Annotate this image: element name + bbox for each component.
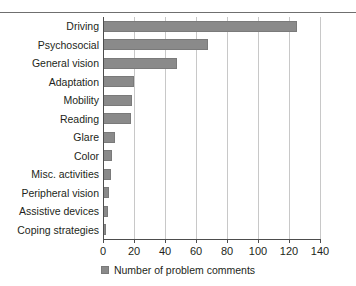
bar-color [103,150,112,161]
plot-area [103,17,320,239]
x-tick-label-140: 140 [300,244,340,258]
bar-general-vision [103,58,177,69]
tick-mark-140 [320,239,321,243]
legend-color-swatch [101,266,109,274]
category-label-reading: Reading [0,110,99,129]
category-label-assistive-devices: Assistive devices [0,202,99,221]
bar-reading [103,113,131,124]
tick-mark-20 [134,239,135,243]
bar-row [103,184,320,203]
tick-mark-80 [227,239,228,243]
bar-row [103,165,320,184]
category-label-general-vision: General vision [0,54,99,73]
bar-row [103,221,320,240]
bar-row [103,17,320,36]
bar-row [103,54,320,73]
category-label-adaptation: Adaptation [0,73,99,92]
bar-chart-figure: DrivingPsychosocialGeneral visionAdaptat… [0,0,356,286]
category-label-mobility: Mobility [0,91,99,110]
gridline-140 [320,17,321,239]
tick-mark-100 [258,239,259,243]
chart-legend: Number of problem comments [0,261,356,279]
bar-misc-activities [103,169,111,180]
tick-mark-120 [289,239,290,243]
category-label-glare: Glare [0,128,99,147]
axis-line-zero [103,17,104,239]
bar-driving [103,21,297,32]
bar-psychosocial [103,39,208,50]
top-divider-rule [0,12,356,13]
tick-mark-0 [103,239,104,243]
bar-row [103,91,320,110]
bar-row [103,202,320,221]
category-label-coping-strategies: Coping strategies [0,221,99,240]
bar-mobility [103,95,132,106]
bar-adaptation [103,76,134,87]
bar-row [103,73,320,92]
bar-row [103,110,320,129]
bar-row [103,128,320,147]
tick-mark-60 [196,239,197,243]
category-label-peripheral-vision: Peripheral vision [0,184,99,203]
tick-mark-40 [165,239,166,243]
category-label-misc-activities: Misc. activities [0,165,99,184]
bar-row [103,36,320,55]
category-label-driving: Driving [0,17,99,36]
value-axis-labels: 020406080100120140 [0,244,356,260]
category-axis-labels: DrivingPsychosocialGeneral visionAdaptat… [0,17,99,239]
legend-label: Number of problem comments [114,264,255,276]
category-label-psychosocial: Psychosocial [0,36,99,55]
bar-row [103,147,320,166]
category-label-color: Color [0,147,99,166]
bar-glare [103,132,115,143]
